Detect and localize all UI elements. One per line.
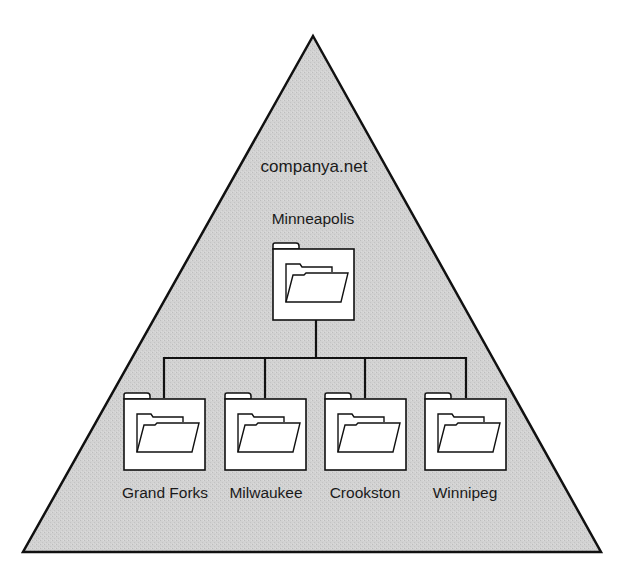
ou-label-grand-forks: Grand Forks (122, 484, 208, 502)
root-ou-label: Minneapolis (272, 210, 355, 228)
folder-icon (424, 392, 508, 472)
ou-folder-crookston[interactable] (324, 392, 406, 470)
ou-folder-grand-forks[interactable] (123, 392, 205, 470)
ou-label-milwaukee: Milwaukee (229, 484, 302, 502)
domain-name-label: companya.net (261, 157, 368, 177)
domain-tree-diagram: companya.net Minneapolis (0, 0, 629, 580)
ou-label-winnipeg: Winnipeg (433, 484, 498, 502)
folder-icon (324, 392, 408, 472)
ou-folder-milwaukee[interactable] (224, 392, 306, 470)
folder-icon (224, 392, 308, 472)
ou-folder-winnipeg[interactable] (424, 392, 506, 470)
ou-folder-minneapolis[interactable] (272, 242, 354, 320)
ou-label-crookston: Crookston (330, 484, 401, 502)
folder-icon (272, 242, 356, 322)
folder-icon (123, 392, 207, 472)
